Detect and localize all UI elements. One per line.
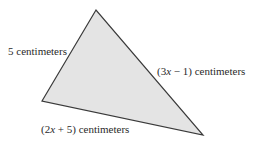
side-label-right-prefix: (3 xyxy=(157,65,166,77)
side-label-bottom-prefix: (2 xyxy=(41,123,50,135)
side-label-left-text: 5 centimeters xyxy=(8,45,67,57)
side-label-right: (3x − 1) centimeters xyxy=(157,66,245,77)
side-label-bottom-suffix: + 5) centimeters xyxy=(55,123,129,135)
side-label-bottom: (2x + 5) centimeters xyxy=(41,124,129,135)
side-label-right-suffix: − 1) centimeters xyxy=(171,65,245,77)
side-label-left: 5 centimeters xyxy=(8,46,67,57)
